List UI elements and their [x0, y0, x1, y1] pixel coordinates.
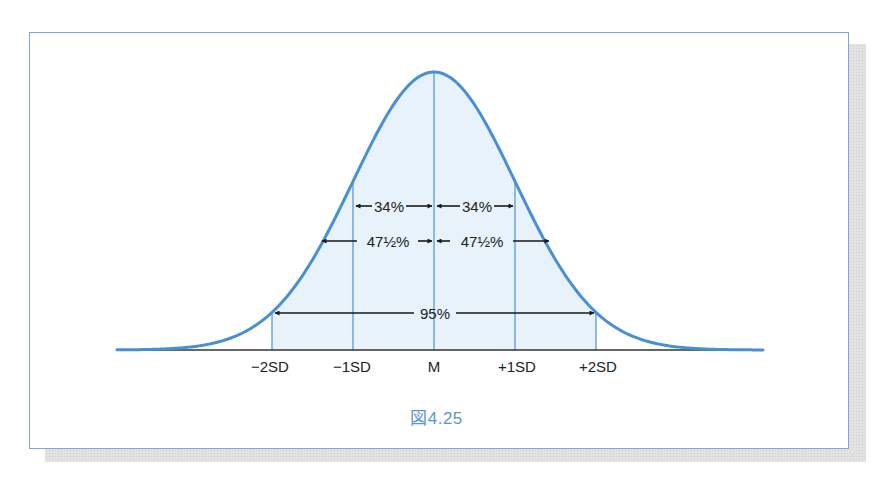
axis-labels: −2SD −1SD M +1SD +2SD [251, 358, 617, 375]
axis-label-plus-1sd: +1SD [498, 358, 536, 375]
label-47-5-left: 47½% [367, 233, 410, 250]
axis-label-mean: M [428, 358, 441, 375]
label-95: 95% [420, 305, 450, 322]
axis-label-minus-2sd: −2SD [251, 358, 289, 375]
label-34-left: 34% [374, 198, 404, 215]
axis-label-minus-1sd: −1SD [333, 358, 371, 375]
figure-caption: 図4.25 [410, 409, 463, 428]
label-47-5-right: 47½% [461, 233, 504, 250]
label-34-right: 34% [462, 198, 492, 215]
figure-caption-container: 図4.25 [0, 404, 893, 429]
axis-label-plus-2sd: +2SD [579, 358, 617, 375]
